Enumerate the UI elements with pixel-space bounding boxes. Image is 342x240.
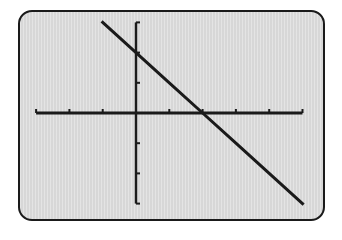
axes: [36, 22, 302, 203]
graph-plot: [0, 0, 342, 240]
